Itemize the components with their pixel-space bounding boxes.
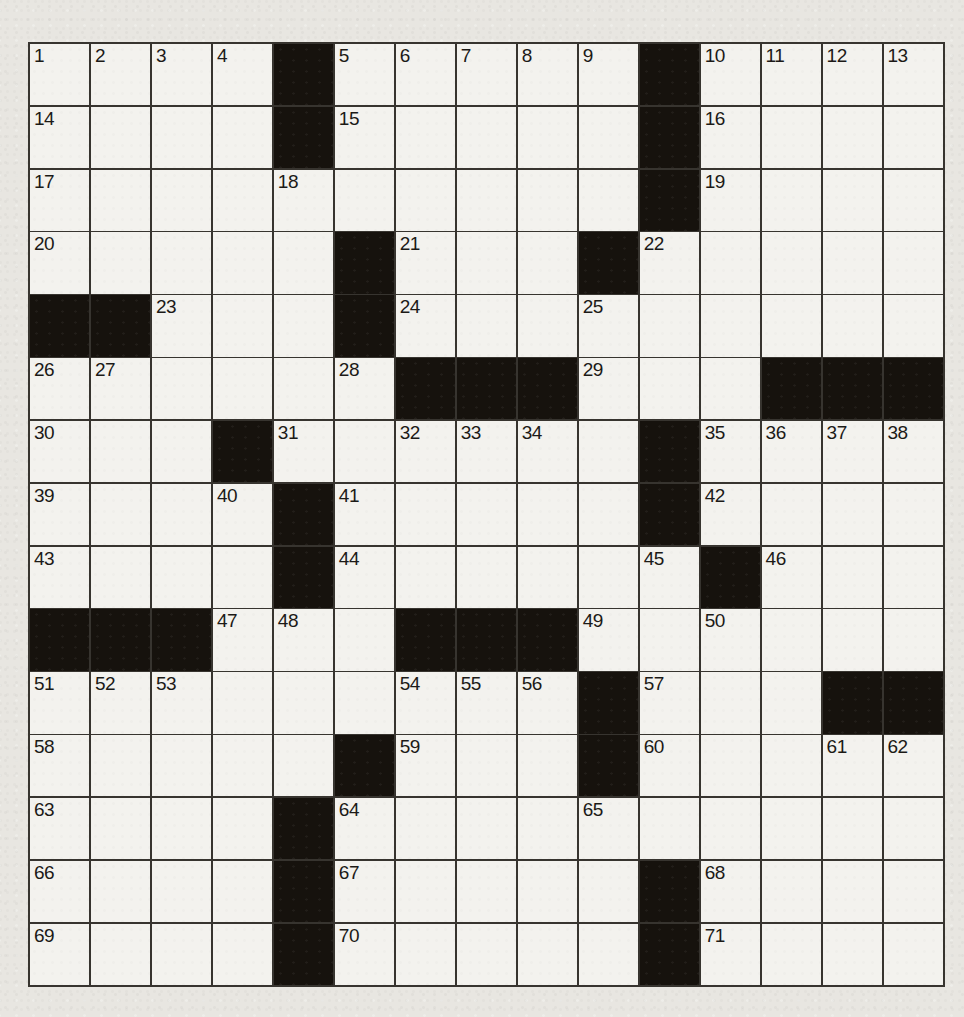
cell-r4-c15[interactable]: [884, 232, 943, 293]
cell-r4-c9[interactable]: [518, 232, 577, 293]
cell-r1-c15[interactable]: 13: [884, 44, 943, 105]
cell-r5-c13[interactable]: [762, 295, 821, 356]
cell-r12-c2[interactable]: [91, 735, 150, 796]
cell-r2-c4[interactable]: [213, 107, 272, 168]
cell-r13-c15[interactable]: [884, 798, 943, 859]
cell-r7-c9[interactable]: 34: [518, 421, 577, 482]
cell-r11-c9[interactable]: 56: [518, 672, 577, 733]
cell-r2-c9[interactable]: [518, 107, 577, 168]
cell-r7-c10[interactable]: [579, 421, 638, 482]
cell-r14-c3[interactable]: [152, 861, 211, 922]
cell-r14-c6[interactable]: 67: [335, 861, 394, 922]
cell-r2-c13[interactable]: [762, 107, 821, 168]
cell-r3-c7[interactable]: [396, 170, 455, 231]
cell-r1-c6[interactable]: 5: [335, 44, 394, 105]
cell-r4-c8[interactable]: [457, 232, 516, 293]
cell-r13-c14[interactable]: [823, 798, 882, 859]
cell-r9-c9[interactable]: [518, 547, 577, 608]
cell-r14-c13[interactable]: [762, 861, 821, 922]
cell-r4-c13[interactable]: [762, 232, 821, 293]
cell-r8-c14[interactable]: [823, 484, 882, 545]
cell-r10-c5[interactable]: 48: [274, 609, 333, 670]
cell-r14-c12[interactable]: 68: [701, 861, 760, 922]
cell-r8-c13[interactable]: [762, 484, 821, 545]
cell-r3-c12[interactable]: 19: [701, 170, 760, 231]
cell-r7-c14[interactable]: 37: [823, 421, 882, 482]
cell-r12-c13[interactable]: [762, 735, 821, 796]
cell-r14-c4[interactable]: [213, 861, 272, 922]
cell-r13-c10[interactable]: 65: [579, 798, 638, 859]
cell-r11-c8[interactable]: 55: [457, 672, 516, 733]
cell-r15-c4[interactable]: [213, 924, 272, 985]
cell-r4-c1[interactable]: 20: [30, 232, 89, 293]
cell-r15-c10[interactable]: [579, 924, 638, 985]
cell-r15-c15[interactable]: [884, 924, 943, 985]
cell-r12-c5[interactable]: [274, 735, 333, 796]
cell-r11-c7[interactable]: 54: [396, 672, 455, 733]
cell-r6-c2[interactable]: 27: [91, 358, 150, 419]
cell-r6-c4[interactable]: [213, 358, 272, 419]
cell-r11-c13[interactable]: [762, 672, 821, 733]
cell-r7-c6[interactable]: [335, 421, 394, 482]
cell-r7-c2[interactable]: [91, 421, 150, 482]
cell-r9-c13[interactable]: 46: [762, 547, 821, 608]
cell-r1-c12[interactable]: 10: [701, 44, 760, 105]
cell-r2-c2[interactable]: [91, 107, 150, 168]
cell-r10-c10[interactable]: 49: [579, 609, 638, 670]
cell-r1-c2[interactable]: 2: [91, 44, 150, 105]
cell-r4-c12[interactable]: [701, 232, 760, 293]
cell-r3-c1[interactable]: 17: [30, 170, 89, 231]
cell-r8-c1[interactable]: 39: [30, 484, 89, 545]
cell-r10-c13[interactable]: [762, 609, 821, 670]
cell-r6-c5[interactable]: [274, 358, 333, 419]
cell-r1-c1[interactable]: 1: [30, 44, 89, 105]
cell-r1-c14[interactable]: 12: [823, 44, 882, 105]
cell-r14-c7[interactable]: [396, 861, 455, 922]
cell-r2-c1[interactable]: 14: [30, 107, 89, 168]
cell-r15-c9[interactable]: [518, 924, 577, 985]
cell-r14-c8[interactable]: [457, 861, 516, 922]
cell-r3-c2[interactable]: [91, 170, 150, 231]
cell-r6-c6[interactable]: 28: [335, 358, 394, 419]
cell-r10-c6[interactable]: [335, 609, 394, 670]
cell-r8-c10[interactable]: [579, 484, 638, 545]
cell-r15-c3[interactable]: [152, 924, 211, 985]
cell-r9-c4[interactable]: [213, 547, 272, 608]
cell-r12-c12[interactable]: [701, 735, 760, 796]
cell-r12-c8[interactable]: [457, 735, 516, 796]
cell-r8-c6[interactable]: 41: [335, 484, 394, 545]
cell-r3-c15[interactable]: [884, 170, 943, 231]
cell-r3-c5[interactable]: 18: [274, 170, 333, 231]
cell-r6-c3[interactable]: [152, 358, 211, 419]
cell-r5-c10[interactable]: 25: [579, 295, 638, 356]
cell-r12-c4[interactable]: [213, 735, 272, 796]
cell-r15-c2[interactable]: [91, 924, 150, 985]
cell-r3-c14[interactable]: [823, 170, 882, 231]
cell-r4-c11[interactable]: 22: [640, 232, 699, 293]
cell-r5-c5[interactable]: [274, 295, 333, 356]
cell-r3-c8[interactable]: [457, 170, 516, 231]
cell-r13-c3[interactable]: [152, 798, 211, 859]
cell-r5-c12[interactable]: [701, 295, 760, 356]
cell-r3-c9[interactable]: [518, 170, 577, 231]
cell-r7-c15[interactable]: 38: [884, 421, 943, 482]
cell-r14-c2[interactable]: [91, 861, 150, 922]
cell-r2-c7[interactable]: [396, 107, 455, 168]
cell-r3-c4[interactable]: [213, 170, 272, 231]
cell-r11-c4[interactable]: [213, 672, 272, 733]
cell-r1-c10[interactable]: 9: [579, 44, 638, 105]
cell-r1-c8[interactable]: 7: [457, 44, 516, 105]
cell-r11-c12[interactable]: [701, 672, 760, 733]
cell-r9-c8[interactable]: [457, 547, 516, 608]
cell-r12-c9[interactable]: [518, 735, 577, 796]
cell-r2-c15[interactable]: [884, 107, 943, 168]
cell-r1-c9[interactable]: 8: [518, 44, 577, 105]
cell-r2-c3[interactable]: [152, 107, 211, 168]
cell-r5-c3[interactable]: 23: [152, 295, 211, 356]
cell-r6-c10[interactable]: 29: [579, 358, 638, 419]
cell-r10-c14[interactable]: [823, 609, 882, 670]
cell-r5-c8[interactable]: [457, 295, 516, 356]
cell-r9-c3[interactable]: [152, 547, 211, 608]
cell-r13-c4[interactable]: [213, 798, 272, 859]
cell-r10-c15[interactable]: [884, 609, 943, 670]
